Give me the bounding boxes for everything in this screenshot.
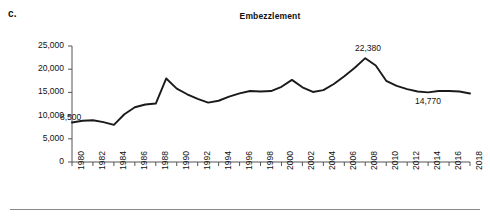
x-axis-tick-label: 1994 <box>223 151 233 170</box>
y-axis-tick-label: 5,000 <box>16 133 64 143</box>
footer-rule <box>10 209 480 210</box>
x-axis-tick-label: 2000 <box>285 151 295 170</box>
data-series-line <box>72 58 470 125</box>
x-axis-tick-label: 2004 <box>327 151 337 170</box>
y-axis-tick-label: 10,000 <box>16 110 64 120</box>
y-axis-tick-label: 15,000 <box>16 86 64 96</box>
x-axis-tick-label: 1990 <box>181 151 191 170</box>
x-axis-tick-label: 1980 <box>76 151 86 170</box>
x-axis-tick-label: 2014 <box>432 151 442 170</box>
figure-panel: c. Embezzlement 05,00010,00015,00020,000… <box>0 0 490 220</box>
y-axis-tick-label: 25,000 <box>16 40 64 50</box>
x-axis-tick-label: 2006 <box>348 151 358 170</box>
data-label-peak: 22,380 <box>355 43 381 53</box>
y-axis-ticks <box>68 46 72 162</box>
x-axis-tick-label: 1988 <box>160 151 170 170</box>
data-label-end: 14,770 <box>415 96 441 106</box>
x-axis-tick-label: 1984 <box>118 151 128 170</box>
x-axis-tick-label: 1996 <box>244 151 254 170</box>
x-axis-tick-label: 1986 <box>139 151 149 170</box>
data-label-start: 8,500 <box>60 112 81 122</box>
x-axis-tick-label: 2016 <box>453 151 463 170</box>
x-axis-tick-label: 1992 <box>202 151 212 170</box>
y-axis-tick-label: 0 <box>16 156 64 166</box>
axis-lines <box>72 46 470 162</box>
x-axis-tick-label: 1982 <box>97 151 107 170</box>
x-axis-tick-label: 2018 <box>474 151 484 170</box>
y-axis-tick-label: 20,000 <box>16 63 64 73</box>
x-axis-tick-label: 2002 <box>306 151 316 170</box>
x-axis-tick-label: 2010 <box>390 151 400 170</box>
x-axis-tick-label: 2012 <box>411 151 421 170</box>
x-axis-tick-label: 2008 <box>369 151 379 170</box>
x-axis-tick-label: 1998 <box>265 151 275 170</box>
